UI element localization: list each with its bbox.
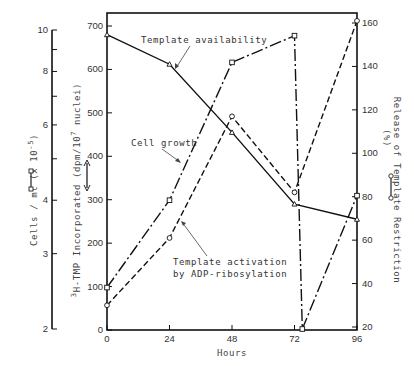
cells-tick-label: 3: [43, 248, 48, 259]
x-axis: 024487296: [104, 325, 362, 344]
right-axis-title-line2: (%): [382, 129, 392, 147]
annotation-template-availability: Template availability: [141, 35, 267, 45]
annotation-template-activation-2: by ADP-ribosylation: [173, 269, 287, 279]
right-tick-label: 20: [362, 321, 373, 332]
cells-tick-label: 6: [43, 119, 48, 130]
left-tick-label: 0: [98, 324, 103, 335]
right-tick-label: 120: [362, 104, 378, 115]
x-tick-label: 24: [164, 333, 175, 344]
circle-marker-icon: [292, 190, 297, 195]
left-tick-label: 400: [87, 150, 103, 161]
annotation-cell-growth: Cell growth: [131, 138, 197, 148]
right-axis: 20406080100120140160: [352, 17, 378, 332]
square-marker-icon: [167, 198, 172, 203]
right-axis-title-line1: Release of Template Restriction: [392, 97, 402, 284]
x-tick-label: 0: [104, 333, 109, 344]
cells-tick-label: 10: [37, 24, 48, 35]
chart: 2346810 0100200300400500600700 204060801…: [0, 0, 414, 366]
cells-axis-title-sup: -5: [27, 140, 35, 150]
x-tick-label: 48: [227, 333, 238, 344]
triangle-marker-icon: [167, 62, 172, 66]
square-marker-icon: [292, 33, 297, 38]
square-marker-icon: [230, 60, 235, 65]
left-axis-title: 3H-TMP Incorporated (dpm/107 nuclei): [70, 83, 82, 297]
circle-marker-icon: [355, 18, 360, 23]
annotation-arrow-template-activation: [182, 222, 207, 256]
annotation-arrow-template-availability: [176, 46, 190, 68]
series-line-cell-growth: [107, 36, 357, 329]
square-marker-icon: [300, 327, 305, 332]
right-axis-title: Release of Template Restriction (%): [382, 97, 402, 284]
circle-marker-icon: [105, 303, 110, 308]
annotation-template-activation-1: Template activation: [173, 257, 287, 267]
left-tick-label: 600: [87, 63, 103, 74]
double-arrow-legend-icon: [84, 160, 90, 191]
left-tick-label: 100: [87, 281, 103, 292]
square-marker-icon: [105, 285, 110, 290]
left-tick-label: 500: [87, 107, 103, 118]
right-tick-label: 160: [362, 17, 378, 28]
cells-axis: 2346810: [37, 24, 57, 334]
right-tick-label: 40: [362, 278, 373, 289]
left-axis-title-close: nuclei): [72, 83, 82, 131]
triangle-marker-icon: [105, 32, 110, 37]
left-tick-label: 300: [87, 194, 103, 205]
cells-axis-title-close: ): [29, 134, 39, 140]
square-marker-icon: [355, 193, 360, 198]
cells-tick-label: 2: [43, 323, 48, 334]
right-tick-label: 80: [362, 191, 373, 202]
x-axis-title: Hours: [217, 348, 247, 358]
circle-marker-icon: [167, 236, 172, 241]
x-tick-label: 72: [289, 333, 300, 344]
svg-text:3H-TMP Incorporated (dpm/107 n: 3H-TMP Incorporated (dpm/107 nuclei): [70, 83, 82, 297]
left-tick-label: 200: [87, 237, 103, 248]
left-axis-title-main: H-TMP Incorporated (dpm/10: [72, 136, 82, 292]
right-tick-label: 100: [362, 147, 378, 158]
left-tick-label: 700: [87, 20, 103, 31]
right-tick-label: 140: [362, 60, 378, 71]
circle-marker-icon: [230, 114, 235, 119]
right-tick-label: 60: [362, 234, 373, 245]
cells-tick-label: 8: [43, 65, 48, 76]
series-layer: [105, 18, 360, 331]
x-tick-label: 96: [352, 333, 363, 344]
triangle-marker-icon: [355, 217, 360, 222]
cells-axis-title-main: Cells / ml (x 10: [29, 150, 39, 246]
cells-tick-label: 4: [43, 194, 48, 205]
